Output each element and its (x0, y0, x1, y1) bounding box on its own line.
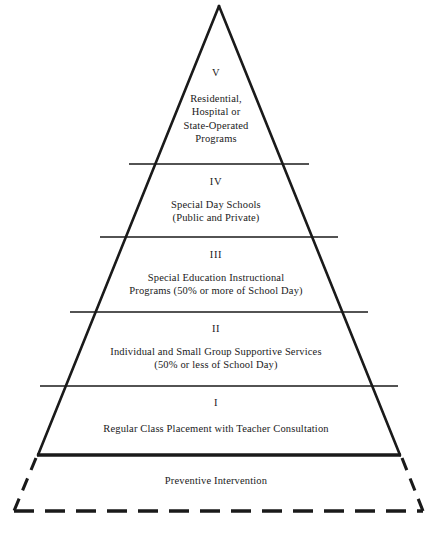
tier-numeral-ii: II (0, 322, 432, 335)
tier-text-iii: Special Education Instructional Programs… (0, 271, 432, 298)
tier-numeral-i: I (0, 396, 432, 409)
tier-text-i: Regular Class Placement with Teacher Con… (0, 422, 432, 435)
pyramid-outline-graphic (0, 0, 432, 536)
foundation-label: Preventive Intervention (0, 474, 432, 487)
tier-text-iv: Special Day Schools (Public and Private) (0, 198, 432, 225)
tier-text-v: Residential, Hospital or State-Operated … (0, 92, 432, 146)
tier-numeral-v: V (0, 66, 432, 79)
tier-text-ii: Individual and Small Group Supportive Se… (0, 345, 432, 372)
tier-numeral-iv: IV (0, 175, 432, 188)
pyramid-diagram: V Residential, Hospital or State-Operate… (0, 0, 432, 536)
tier-numeral-iii: III (0, 248, 432, 261)
